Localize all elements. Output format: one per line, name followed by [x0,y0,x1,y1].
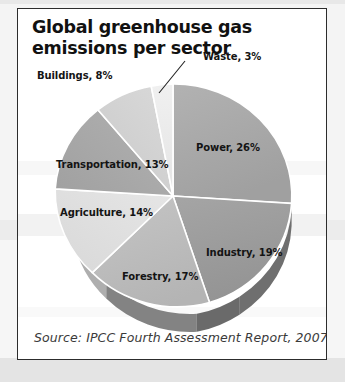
pie-label-industry: Industry, 19% [206,247,282,258]
source-caption: Source: IPCC Fourth Assessment Report, 2… [34,330,327,345]
pie-chart: Power, 26% Industry, 19% Forestry, 17% A… [18,9,327,360]
pie-label-waste: Waste, 3% [203,51,261,62]
chart-card: Global greenhouse gas emissions per sect… [17,8,327,360]
pie-label-buildings: Buildings, 8% [37,70,112,81]
pie-label-transportation: Transportation, 13% [56,159,168,170]
pie-label-power: Power, 26% [196,142,260,153]
pie-chart-svg [18,9,327,360]
pie-label-forestry: Forestry, 17% [122,271,198,282]
pie-label-agriculture: Agriculture, 14% [60,207,153,218]
